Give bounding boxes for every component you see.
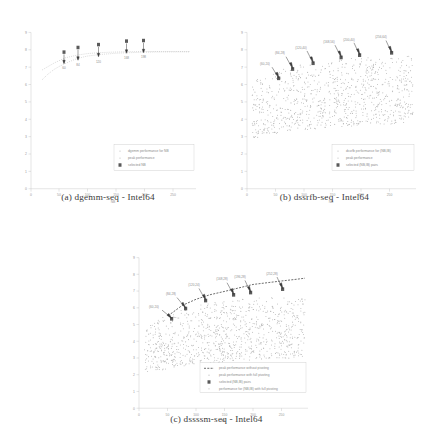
ytick-b-7: 7 bbox=[241, 65, 243, 69]
ytick-a-3: 3 bbox=[25, 135, 27, 139]
ytick-c-7: 7 bbox=[133, 289, 135, 293]
selected-points-c: (60,20) (84,28) (120,24) (168,28) (196,2… bbox=[149, 272, 284, 321]
plot-area-a: 0 1 2 3 4 5 6 7 8 9 0 50 100 150 200 bbox=[0, 0, 216, 220]
legend-c-item-3: performance for (NB,IB) with full pivoti… bbox=[219, 387, 278, 391]
ytick-c-6: 6 bbox=[133, 306, 135, 310]
selected-points-a: 60 84 120 168 198 bbox=[62, 39, 146, 71]
chart-b-svg: 0 1 2 3 4 5 6 7 8 9 0 50 100 150 200 bbox=[216, 0, 433, 220]
plot-area-b: 0 1 2 3 4 5 6 7 8 9 0 50 100 150 200 bbox=[216, 0, 433, 220]
panel-a-dgemm-seq: 0 1 2 3 4 5 6 7 8 9 0 50 100 150 200 bbox=[0, 0, 216, 220]
caption-b: (b) dssrfb-seq - Intel64 bbox=[216, 192, 433, 202]
point-label-a-1: 84 bbox=[76, 63, 80, 67]
ytick-c-4: 4 bbox=[133, 339, 135, 343]
chart-c-svg: 0 1 2 3 4 5 6 7 8 9 0 50 100 150 200 bbox=[108, 228, 325, 439]
ytick-b-1: 1 bbox=[241, 170, 243, 174]
point-label-c-5: (252,28) bbox=[266, 272, 278, 276]
ytick-b-3: 3 bbox=[241, 135, 243, 139]
point-label-c-3: (168,28) bbox=[216, 277, 228, 281]
point-label-c-2: (120,24) bbox=[188, 283, 200, 287]
figure-three-panel-performance: 0 1 2 3 4 5 6 7 8 9 0 50 100 150 200 bbox=[0, 0, 433, 439]
point-label-c-4: (196,28) bbox=[234, 275, 246, 279]
point-label-b-3: (168,56) bbox=[323, 40, 335, 44]
point-label-b-1: (84,28) bbox=[275, 51, 285, 55]
legend-a-item-2: selected NB bbox=[128, 163, 146, 167]
ytick-b-2: 2 bbox=[241, 152, 243, 156]
chart-a-svg: 0 1 2 3 4 5 6 7 8 9 0 50 100 150 200 bbox=[0, 0, 216, 220]
point-label-b-2: (120,40) bbox=[295, 45, 307, 49]
ytick-c-1: 1 bbox=[133, 390, 135, 394]
ytick-a-8: 8 bbox=[25, 48, 27, 52]
ytick-b-0: 0 bbox=[241, 187, 243, 191]
caption-c: (c) dssssm-seq - Intel64 bbox=[108, 414, 325, 424]
legend-a-item-0: dgemm performance for NB bbox=[128, 149, 169, 153]
legend-c: peak performance without pivoting peak p… bbox=[200, 363, 306, 393]
ytick-c-3: 3 bbox=[133, 356, 135, 360]
legend-a: dgemm performance for NB peak performanc… bbox=[114, 145, 194, 170]
ytick-b-6: 6 bbox=[241, 83, 243, 87]
ytick-c-9: 9 bbox=[133, 256, 135, 260]
scatter-cloud-c bbox=[144, 297, 305, 372]
ytick-a-2: 2 bbox=[25, 152, 27, 156]
panel-c-dssssm-seq: 0 1 2 3 4 5 6 7 8 9 0 50 100 150 200 bbox=[108, 228, 325, 439]
ytick-a-4: 4 bbox=[25, 117, 27, 121]
selected-points-b: (60,20) (84,28) (120,40) (168,56) (200,4… bbox=[260, 35, 393, 80]
panel-b-dssrfb-seq: 0 1 2 3 4 5 6 7 8 9 0 50 100 150 200 bbox=[216, 0, 433, 220]
legend-c-item-2: selected (NB,IB) pairs bbox=[219, 380, 251, 384]
caption-a: (a) dgemm-seq - Intel64 bbox=[0, 192, 216, 202]
point-label-a-4: 198 bbox=[141, 55, 146, 59]
legend-a-item-1: peak performance bbox=[128, 156, 155, 160]
point-label-c-0: (60,20) bbox=[149, 305, 159, 309]
point-label-a-3: 168 bbox=[124, 56, 129, 60]
ytick-b-9: 9 bbox=[241, 31, 243, 35]
legend-c-item-1: peak performance with full pivoting bbox=[219, 373, 270, 377]
ytick-c-0: 0 bbox=[133, 406, 135, 410]
scatter-cloud-b bbox=[252, 56, 414, 138]
point-label-a-0: 60 bbox=[62, 66, 66, 70]
point-label-b-0: (60,20) bbox=[260, 62, 270, 66]
ytick-c-5: 5 bbox=[133, 323, 135, 327]
ytick-a-6: 6 bbox=[25, 83, 27, 87]
ytick-a-5: 5 bbox=[25, 100, 27, 104]
ytick-a-1: 1 bbox=[25, 170, 27, 174]
point-label-b-5: (256,64) bbox=[375, 35, 387, 39]
legend-b-item-2: selected (NB,IB) pairs bbox=[346, 163, 378, 167]
plot-area-c: 0 1 2 3 4 5 6 7 8 9 0 50 100 150 200 bbox=[108, 228, 325, 439]
legend-b-item-1: peak performance bbox=[346, 156, 373, 160]
ytick-a-0: 0 bbox=[25, 187, 27, 191]
ytick-b-8: 8 bbox=[241, 48, 243, 52]
ytick-b-5: 5 bbox=[241, 100, 243, 104]
ytick-c-8: 8 bbox=[133, 272, 135, 276]
ytick-b-4: 4 bbox=[241, 117, 243, 121]
point-label-c-1: (84,28) bbox=[166, 292, 176, 296]
ytick-a-9: 9 bbox=[25, 31, 27, 35]
ytick-a-7: 7 bbox=[25, 65, 27, 69]
legend-b-item-0: dssrfb performance for (NB,IB) bbox=[346, 149, 391, 153]
point-label-a-2: 120 bbox=[96, 59, 101, 63]
legend-c-item-0: peak performance without pivoting bbox=[219, 366, 269, 370]
legend-b: dssrfb performance for (NB,IB) peak perf… bbox=[332, 145, 414, 170]
point-label-b-4: (200,40) bbox=[343, 37, 355, 41]
ytick-c-2: 2 bbox=[133, 373, 135, 377]
